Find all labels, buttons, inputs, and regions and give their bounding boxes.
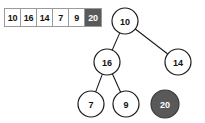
node-label: 14 <box>173 58 183 68</box>
tree-edge <box>96 74 103 92</box>
tree-edge <box>135 29 167 54</box>
tree-edge <box>112 33 120 50</box>
tree-node: 16 <box>94 49 120 75</box>
tree-node: 10 <box>112 8 138 34</box>
node-label: 9 <box>123 100 128 110</box>
tree-nodes: 1016147920 <box>78 8 191 118</box>
tree-node: 14 <box>165 49 191 75</box>
tree-node: 20 <box>151 90 179 118</box>
node-label: 16 <box>102 58 112 68</box>
node-label: 20 <box>160 100 170 110</box>
tree-node: 7 <box>78 91 104 117</box>
heap-tree: 1016147920 <box>0 0 205 123</box>
tree-node: 9 <box>113 91 139 117</box>
diagram-canvas: 1016147920 1016147920 <box>0 0 205 123</box>
node-label: 10 <box>120 17 130 27</box>
node-label: 7 <box>88 100 93 110</box>
tree-edge <box>112 74 120 92</box>
